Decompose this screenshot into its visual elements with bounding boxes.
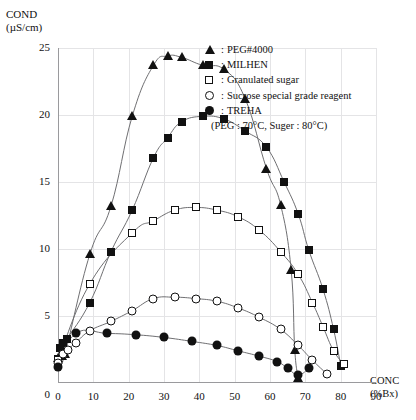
filled-square-marker-icon: [128, 206, 136, 214]
legend-label: MILHEN: [227, 57, 268, 72]
open-circle-marker-icon: [294, 341, 303, 350]
triangle-marker-icon: [163, 51, 173, 60]
data-point: [85, 326, 94, 335]
data-point: [213, 297, 222, 306]
open-circle-marker-icon: [234, 303, 243, 312]
data-point: [171, 206, 179, 214]
x-tick-label: 30: [151, 390, 177, 402]
filled-circle-marker-icon: [255, 352, 264, 361]
filled-square-marker-icon: [294, 210, 302, 218]
open-square-marker-icon: [330, 347, 338, 355]
filled-square-marker-icon: [107, 248, 115, 256]
y-tick-label: 15: [26, 175, 50, 187]
open-square-marker-icon: [192, 203, 200, 211]
data-point: [255, 226, 263, 234]
y-axis-title: COND (µS/cm): [6, 8, 42, 34]
y-axis-title-line1: COND: [6, 8, 37, 20]
conductivity-concentration-chart: COND (µS/cm) CONC (%Bx) 0510152025 01020…: [0, 0, 416, 420]
data-point: [163, 51, 173, 60]
data-point: [262, 143, 270, 151]
open-circle-marker-icon: [276, 325, 285, 334]
legend-marker: [205, 106, 221, 115]
filled-circle-marker-icon: [283, 364, 292, 373]
x-tick-label: 40: [186, 390, 212, 402]
data-point: [276, 325, 285, 334]
data-point: [71, 329, 80, 338]
open-square-marker-icon: [340, 360, 348, 368]
y-tick-label: 10: [26, 242, 50, 254]
legend-separator: :: [221, 42, 224, 57]
x-tick-label: 80: [328, 390, 354, 402]
data-point: [308, 299, 316, 307]
open-square-marker-icon: [86, 280, 94, 288]
data-point: [149, 294, 158, 303]
open-square-marker-icon: [213, 206, 221, 214]
open-square-marker-icon: [255, 226, 263, 234]
triangle-marker-icon: [106, 201, 116, 210]
data-point: [322, 369, 331, 378]
x-tick-label: 20: [116, 390, 142, 402]
data-point: [273, 357, 282, 366]
data-point: [148, 60, 158, 69]
data-point: [192, 203, 200, 211]
legend-separator: :: [221, 72, 224, 87]
filled-circle-marker-icon: [160, 333, 169, 342]
data-point: [106, 201, 116, 210]
x-tick-label: 70: [292, 390, 318, 402]
data-point: [85, 249, 95, 258]
open-square-marker-icon: [277, 248, 285, 256]
data-point: [330, 347, 338, 355]
triangle-marker-icon: [85, 249, 95, 258]
y-tick-label: 5: [26, 309, 50, 321]
filled-circle-marker-icon: [294, 370, 303, 379]
filled-circle-marker-icon: [54, 362, 63, 371]
legend-item-0: :PEG#4000: [205, 42, 351, 57]
open-square-marker-icon: [171, 206, 179, 214]
data-point: [234, 346, 243, 355]
series-line-4: [58, 330, 309, 375]
filled-circle-marker-icon: [234, 346, 243, 355]
filled-circle-marker-icon: [273, 357, 282, 366]
triangle-marker-icon: [261, 164, 271, 173]
open-circle-marker-icon: [107, 317, 116, 326]
open-square-marker-icon: [234, 213, 242, 221]
legend-item-1: :MILHEN: [205, 57, 351, 72]
open-square-marker-icon: [319, 323, 327, 331]
data-point: [213, 206, 221, 214]
data-point: [330, 325, 338, 333]
filled-circle-marker-icon: [71, 329, 80, 338]
data-point: [234, 213, 242, 221]
data-point: [71, 338, 80, 347]
filled-circle-marker-icon: [213, 341, 222, 350]
open-square-marker-icon: [128, 229, 136, 237]
data-point: [86, 280, 94, 288]
y-tick-label: 20: [26, 108, 50, 120]
filled-square-marker-icon: [63, 335, 71, 343]
open-square-marker-icon: [205, 76, 213, 84]
filled-circle-marker-icon: [205, 106, 214, 115]
legend-label: TREHA: [227, 103, 262, 118]
filled-square-marker-icon: [86, 299, 94, 307]
data-point: [127, 111, 137, 120]
open-circle-marker-icon: [71, 338, 80, 347]
data-point: [128, 206, 136, 214]
filled-square-marker-icon: [330, 325, 338, 333]
open-square-marker-icon: [294, 270, 302, 278]
data-point: [294, 270, 302, 278]
data-point: [63, 335, 71, 343]
filled-square-marker-icon: [280, 178, 288, 186]
legend-separator: :: [221, 103, 224, 118]
legend-separator: :: [221, 88, 224, 103]
triangle-marker-icon: [205, 45, 215, 54]
open-circle-marker-icon: [255, 313, 264, 322]
legend-note: (PEG : 70°C, Suger : 80°C): [205, 118, 351, 133]
data-point: [170, 293, 179, 302]
triangle-marker-icon: [276, 200, 286, 209]
data-point: [128, 306, 137, 315]
open-circle-marker-icon: [205, 91, 214, 100]
filled-square-marker-icon: [262, 143, 270, 151]
data-point: [319, 323, 327, 331]
x-tick-label: 50: [222, 390, 248, 402]
filled-square-marker-icon: [319, 285, 327, 293]
data-point: [131, 330, 140, 339]
